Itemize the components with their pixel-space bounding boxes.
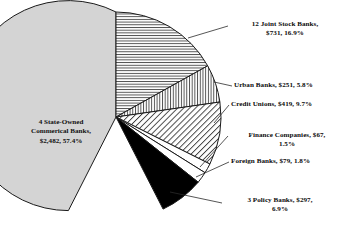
pie-label-3-policy-banks: 3 Policy Banks, $297, 6.9% bbox=[224, 196, 336, 214]
leader-line-urban bbox=[214, 82, 232, 86]
pie-chart-figure: 4 State-Owned Commerical Banks, $2,482, … bbox=[0, 0, 347, 230]
pie-label-finance-line1: Finance Companies, $67, bbox=[231, 131, 343, 140]
pie-label-12-joint-stock-banks: 12 Joint Stock Banks, $731, 16.9% bbox=[229, 20, 341, 38]
pie-label-finance-companies: Finance Companies, $67, 1.5% bbox=[231, 131, 343, 149]
pie-label-joint-stock-line2: $731, 16.9% bbox=[229, 29, 341, 38]
pie-label-urban-line1: Urban Banks, $251, 5.8% bbox=[234, 81, 346, 90]
pie-label-state-owned-line3: $2,482, 57.4% bbox=[14, 137, 108, 146]
pie-label-finance-line2: 1.5% bbox=[231, 140, 343, 149]
pie-label-credit-unions-line1: Credit Unions, $419, 9.7% bbox=[231, 100, 345, 109]
pie-label-state-owned-line1: 4 State-Owned bbox=[14, 118, 108, 127]
pie-label-credit-unions: Credit Unions, $419, 9.7% bbox=[231, 100, 345, 109]
pie-label-policy-line1: 3 Policy Banks, $297, bbox=[224, 196, 336, 205]
pie-label-policy-line2: 6.9% bbox=[224, 205, 336, 214]
pie-label-joint-stock-line1: 12 Joint Stock Banks, bbox=[229, 20, 341, 29]
pie-label-foreign-line1: Foreign Banks, $79, 1.8% bbox=[231, 157, 343, 166]
pie-slice-state-owned-commerical-banks bbox=[0, 1, 116, 211]
pie-label-foreign-banks: Foreign Banks, $79, 1.8% bbox=[231, 157, 343, 166]
pie-label-state-owned-commerical-banks: 4 State-Owned Commerical Banks, $2,482, … bbox=[14, 118, 108, 146]
pie-label-state-owned-line2: Commerical Banks, bbox=[14, 127, 108, 136]
leader-line-joint-stock bbox=[188, 26, 228, 38]
pie-label-urban-banks: Urban Banks, $251, 5.8% bbox=[234, 81, 346, 90]
